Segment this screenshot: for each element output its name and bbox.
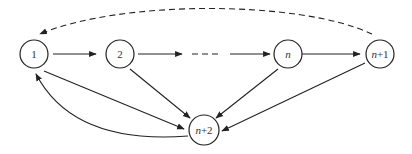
node-n+1: n+1 bbox=[366, 40, 394, 68]
node-1-label: 1 bbox=[31, 48, 37, 60]
edge-n+1-to-1 bbox=[40, 9, 372, 35]
node-1: 1 bbox=[20, 40, 48, 68]
node-n+2-label: n+2 bbox=[195, 124, 212, 136]
node-n+1-label: n+1 bbox=[371, 48, 388, 60]
node-n-label: n bbox=[285, 48, 291, 60]
node-2-label: 2 bbox=[117, 48, 123, 60]
graph-diagram: 1 2 n n+1 n+2 bbox=[0, 0, 412, 154]
edge-n-to-n+2 bbox=[216, 69, 278, 118]
node-n: n bbox=[274, 40, 302, 68]
node-2: 2 bbox=[106, 40, 134, 68]
edge-1-to-n+2 bbox=[44, 71, 184, 129]
node-n+2: n+2 bbox=[189, 115, 219, 145]
edge-n+2-to-1 bbox=[36, 74, 188, 137]
